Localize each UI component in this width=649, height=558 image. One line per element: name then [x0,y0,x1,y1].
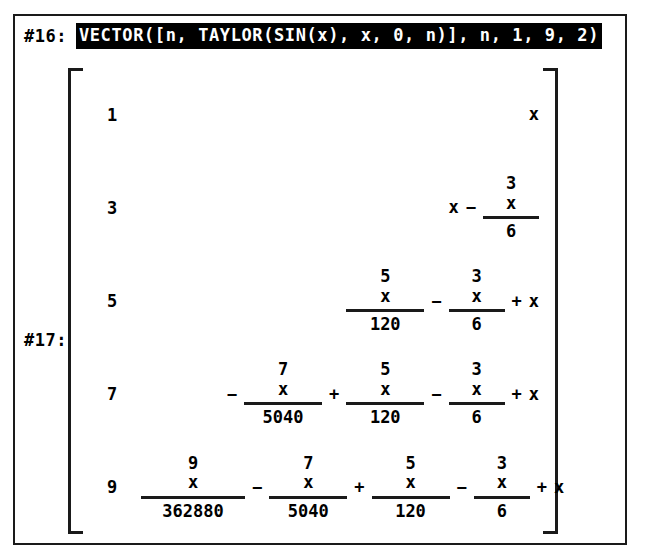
math-power: 3x [471,360,481,399]
matrix-cell-polynomial: −7x5040+5x120−3x6+x [141,360,543,428]
power-exponent: 3 [471,267,481,287]
power-exponent: 9 [188,454,198,474]
fraction-numerator: 7x [299,454,317,493]
fraction-denominator: 6 [502,222,520,242]
matrix-cell-order: 5 [83,291,141,311]
math-operator: + [322,386,346,403]
fraction-denominator: 6 [467,408,485,428]
fraction-denominator: 5040 [284,502,333,522]
fraction-denominator: 120 [391,502,430,522]
matrix-rows: 1x3x−3x655x120−3x6+x7−7x5040+5x120−3x6+x… [83,68,543,534]
fraction-denominator: 6 [467,315,485,335]
math-fraction: 3x6 [449,267,505,335]
math-fraction: 3x6 [483,174,539,242]
taylor-polynomial: x [529,106,539,123]
power-base: x [380,287,390,307]
power-base: x [188,473,198,493]
matrix-cell-order: 9 [83,477,141,497]
matrix-cell-order: 3 [83,198,141,218]
math-fraction: 3x6 [449,360,505,428]
fraction-numerator: 3x [467,267,485,306]
output-line-number: #17: [24,330,67,350]
taylor-polynomial: −7x5040+5x120−3x6+x [227,360,539,428]
math-operator: − [227,386,244,403]
fraction-denominator: 5040 [259,408,308,428]
power-exponent: 5 [405,454,415,474]
math-operator: − [424,293,448,310]
math-operator: − [459,199,483,216]
fraction-bar [449,309,505,312]
fraction-numerator: 3x [502,174,520,213]
math-fraction: 5x120 [372,454,450,522]
fraction-numerator: 5x [401,454,419,493]
matrix-cell-polynomial: 9x362880−7x5040+5x120−3x6+x [141,454,568,522]
fraction-bar [244,402,322,405]
fraction-bar [346,309,424,312]
matrix-cell-order: 1 [83,105,141,125]
matrix-row: 55x120−3x6+x [83,254,543,347]
math-variable: x [554,479,564,496]
math-variable: x [449,199,459,216]
math-operator: − [424,386,448,403]
math-power: 3x [471,267,481,306]
fraction-numerator: 7x [274,360,292,399]
fraction-bar [269,496,347,499]
matrix-row: 1x [83,68,543,161]
power-base: x [471,287,481,307]
input-expression-text[interactable]: VECTOR([n, TAYLOR(SIN(x), x, 0, n)], n, … [76,23,602,49]
power-base: x [497,473,507,493]
power-exponent: 5 [380,267,390,287]
math-operator: + [505,293,529,310]
matrix-row: 3x−3x6 [83,161,543,254]
math-operator: + [530,479,554,496]
input-expression-line[interactable]: #16: VECTOR([n, TAYLOR(SIN(x), x, 0, n)]… [15,16,625,56]
math-power: 5x [380,267,390,306]
fraction-bar [372,496,450,499]
math-operator: − [450,479,474,496]
power-exponent: 3 [497,454,507,474]
fraction-denominator: 120 [366,408,405,428]
power-exponent: 3 [506,174,516,194]
math-power: 7x [278,360,288,399]
fraction-numerator: 3x [467,360,485,399]
power-base: x [303,473,313,493]
power-base: x [380,380,390,400]
fraction-bar [483,216,539,219]
matrix-row: 7−7x5040+5x120−3x6+x [83,348,543,441]
math-fraction: 5x120 [346,360,424,428]
fraction-numerator: 3x [493,454,511,493]
matrix-cell-polynomial: 5x120−3x6+x [141,267,543,335]
math-variable: x [529,106,539,123]
matrix-cell-polynomial: x−3x6 [141,174,543,242]
fraction-bar [449,402,505,405]
math-fraction: 5x120 [346,267,424,335]
power-base: x [471,380,481,400]
power-base: x [405,473,415,493]
power-exponent: 3 [471,360,481,380]
taylor-polynomial: x−3x6 [449,174,540,242]
power-base: x [506,194,516,214]
math-power: 5x [380,360,390,399]
power-base: x [278,380,288,400]
math-fraction: 7x5040 [269,454,347,522]
fraction-denominator: 120 [366,315,405,335]
matrix-expression[interactable]: 1x3x−3x655x120−3x6+x7−7x5040+5x120−3x6+x… [68,68,558,534]
fraction-numerator: 5x [376,360,394,399]
math-power: 3x [506,174,516,213]
output-expression-area: #17: 1x3x−3x655x120−3x6+x7−7x5040+5x120−… [15,58,625,543]
math-fraction: 7x5040 [244,360,322,428]
fraction-bar [346,402,424,405]
fraction-numerator: 5x [376,267,394,306]
math-power: 3x [497,454,507,493]
math-power: 9x [188,454,198,493]
math-operator: − [245,479,269,496]
power-exponent: 7 [303,454,313,474]
matrix-cell-polynomial: x [141,106,543,123]
math-power: 7x [303,454,313,493]
math-fraction: 9x362880 [141,454,245,522]
math-variable: x [529,293,539,310]
fraction-denominator: 6 [493,502,511,522]
math-fraction: 3x6 [474,454,530,522]
fraction-denominator: 362880 [158,502,227,522]
math-power: 5x [405,454,415,493]
